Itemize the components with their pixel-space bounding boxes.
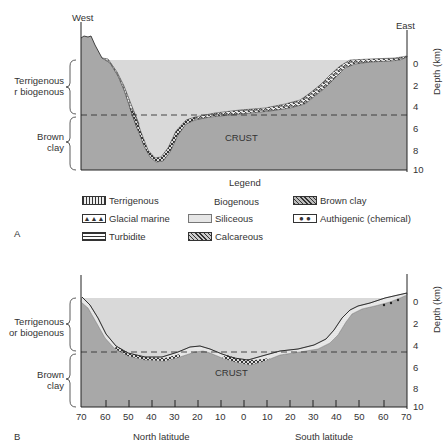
legend-item-brown-clay: Brown clay <box>293 195 366 206</box>
triangles-swatch-icon: ▲▲▲ <box>82 214 106 223</box>
depth-axis-label-a: Depth (km) <box>407 48 418 95</box>
depth-tick-b: 4 <box>413 340 418 351</box>
depth-tick-a: 6 <box>413 123 418 134</box>
siliceous-swatch-icon <box>188 214 212 223</box>
depth-tick-a: 8 <box>413 145 418 156</box>
legend-item-glacial-marine: ▲▲▲Glacial marine <box>82 213 170 224</box>
brown-clay-swatch-icon <box>293 196 317 205</box>
depth-tick-a: 4 <box>413 101 418 112</box>
lower-layer-label-a: Brown clay <box>37 131 64 153</box>
ovals-swatch-icon: ● ● <box>293 214 317 223</box>
west-label: West <box>72 12 93 23</box>
east-label: East <box>396 20 415 31</box>
legend-item-terrigenous: Terrigenous <box>82 195 159 206</box>
crust-label-a: CRUST <box>225 132 258 143</box>
depth-tick-b: 10 <box>413 401 424 412</box>
panel-b <box>66 274 407 409</box>
north-latitude-label: North latitude <box>133 431 190 442</box>
legend-item-calcareous: Calcareous <box>188 231 263 242</box>
crust-label-b: CRUST <box>215 367 248 378</box>
south-latitude-label: South latitude <box>295 431 353 442</box>
turbidite-swatch-icon <box>82 232 106 241</box>
upper-layer-label-a: Terrigenous r biogenous <box>14 75 64 97</box>
depth-tick-b: 8 <box>413 383 418 394</box>
depth-axis-label-b: Depth (km) <box>407 286 418 333</box>
terrigenous-swatch-icon <box>82 196 106 205</box>
upper-layer-label-b: Terrigenous or biogenous <box>9 316 64 338</box>
panel-a-label: A <box>14 228 20 239</box>
panel-a <box>66 22 407 172</box>
legend-biogenous-header: Biogenous <box>214 196 259 207</box>
legend-item-turbidite: Turbidite <box>82 231 146 242</box>
legend-item-authigenic: ● ●Authigenic (chemical) <box>293 213 411 224</box>
legend-item-siliceous: Siliceous <box>188 213 253 224</box>
legend-title: Legend <box>229 177 261 188</box>
panel-b-label: B <box>14 431 20 442</box>
depth-tick-a: 10 <box>413 164 424 175</box>
sediment-cross-section-diagram <box>0 0 444 448</box>
lower-layer-label-b: Brown clay <box>37 369 64 391</box>
calcareous-swatch-icon <box>188 232 212 241</box>
depth-tick-b: 6 <box>413 362 418 373</box>
